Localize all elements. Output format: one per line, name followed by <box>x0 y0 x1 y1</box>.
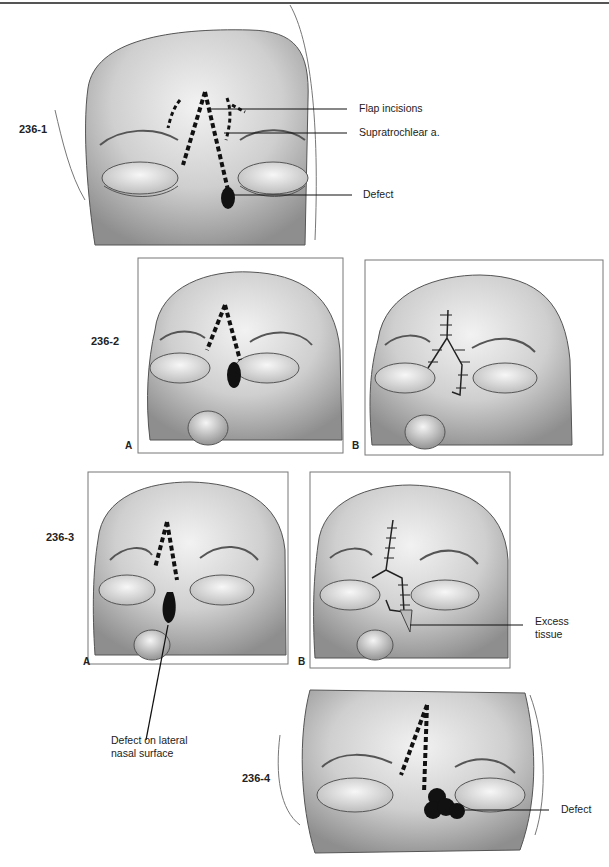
face-illustration-236-2 <box>0 250 609 460</box>
panel-label-236-2-b: B <box>352 440 359 451</box>
figure-236-1: 236-1 Flap incisions Supratrochlear a. D… <box>0 0 609 250</box>
panel-236-3-b <box>310 472 523 668</box>
figure-label-236-2: 236-2 <box>91 335 119 347</box>
face-illustration-236-1 <box>0 0 609 250</box>
figure-label-236-1: 236-1 <box>19 123 47 135</box>
annotation-defect-236-1: Defect <box>363 188 393 201</box>
face-illustration-236-4 <box>0 675 609 867</box>
annotation-flap-incisions: Flap incisions <box>359 102 423 115</box>
annotation-supratrochlear-artery: Supratrochlear a. <box>359 126 440 139</box>
annotation-defect-236-4: Defect <box>561 803 591 816</box>
annotation-excess-tissue-line1: Excess <box>535 615 569 628</box>
figure-236-3: 236-3 A B Excess tissue <box>0 460 609 675</box>
panel-label-236-3-a: A <box>83 656 90 667</box>
annotation-excess-tissue-line2: tissue <box>535 628 569 641</box>
panel-236-2-b <box>365 260 603 455</box>
panel-label-236-3-b: B <box>298 656 305 667</box>
figure-236-4: 236-4 Defect <box>0 675 609 867</box>
panel-236-2-a <box>138 258 343 453</box>
figure-label-236-4: 236-4 <box>242 772 270 784</box>
figure-236-2: 236-2 A B <box>0 250 609 460</box>
panel-label-236-2-a: A <box>125 440 132 451</box>
figure-label-236-3: 236-3 <box>46 531 74 543</box>
face-illustration-236-3 <box>0 460 609 675</box>
annotation-excess-tissue: Excess tissue <box>535 615 569 641</box>
